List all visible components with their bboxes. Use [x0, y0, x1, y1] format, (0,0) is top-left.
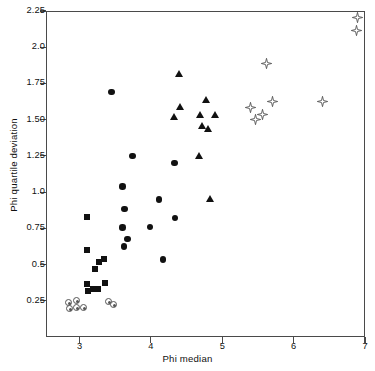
y-tick-label: 0.25 [1, 296, 45, 305]
data-point-filled-circles [129, 153, 135, 159]
x-tick-label: 7 [355, 342, 375, 351]
data-point-squares [101, 256, 107, 262]
data-point-open-stars [245, 99, 256, 110]
data-point-filled-triangles [176, 103, 184, 110]
data-point-open-stars [267, 93, 278, 104]
scatter-chart: 0.250.50.751.01.251.501.752.02.25 34567 … [0, 0, 375, 371]
data-point-squares [95, 286, 101, 292]
data-point-open-stars [257, 106, 268, 117]
y-tick-label: 2.25 [1, 6, 45, 15]
data-point-circled-dot [110, 301, 117, 308]
data-point-squares [84, 214, 90, 220]
x-tick-label: 5 [212, 342, 232, 351]
y-tick-label: 2.0 [1, 42, 45, 51]
data-point-filled-triangles [170, 113, 178, 120]
data-point-squares [102, 280, 108, 286]
x-tick-label: 6 [284, 342, 304, 351]
data-point-circled-dot [66, 305, 73, 312]
data-point-filled-circles [160, 256, 166, 262]
x-axis-title: Phi median [0, 354, 375, 364]
data-point-filled-triangles [202, 96, 210, 103]
data-point-filled-circles [171, 160, 177, 166]
y-tick-label: 1.75 [1, 78, 45, 87]
y-tick-label: 0.5 [1, 260, 45, 269]
data-point-open-stars [261, 55, 272, 66]
data-point-filled-circles [121, 206, 127, 212]
data-point-circled-dot [80, 304, 87, 311]
data-point-filled-triangles [204, 125, 212, 132]
data-point-open-stars [317, 93, 328, 104]
data-point-filled-triangles [196, 111, 204, 118]
y-axis-title: Phi quartile deviation [9, 85, 19, 245]
data-point-open-stars [352, 9, 363, 20]
data-point-filled-circles [124, 236, 130, 242]
data-point-filled-triangles [175, 70, 183, 77]
x-tick-label: 4 [141, 342, 161, 351]
data-point-filled-triangles [206, 195, 214, 202]
data-point-filled-circles [119, 224, 125, 230]
y-tick-label: 0.75 [1, 223, 45, 232]
data-point-squares [92, 266, 98, 272]
data-point-circled-dot [73, 297, 80, 304]
x-tick-label: 3 [70, 342, 90, 351]
data-point-open-stars [351, 22, 362, 33]
data-point-squares [84, 247, 90, 253]
data-point-filled-circles [119, 183, 125, 189]
data-point-filled-triangles [195, 152, 203, 159]
data-point-filled-circles [156, 196, 162, 202]
data-point-filled-triangles [211, 111, 219, 118]
data-point-filled-circles [121, 243, 127, 249]
